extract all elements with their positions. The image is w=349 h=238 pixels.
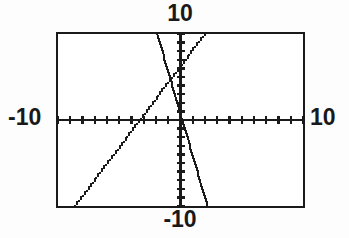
- line-pixel: [206, 201, 208, 204]
- line-pixel: [119, 145, 122, 148]
- y-max-label: 10: [0, 2, 349, 25]
- line-pixel: [126, 136, 128, 139]
- line-pixel: [167, 82, 170, 85]
- line-pixel: [136, 123, 139, 126]
- line-pixel: [165, 63, 167, 66]
- line-pixel: [101, 168, 104, 171]
- line-pixel: [201, 186, 203, 189]
- line-pixel: [158, 38, 160, 41]
- line-pixel: [177, 103, 179, 106]
- x-min-label: -10: [8, 106, 41, 129]
- line-pixel: [92, 182, 95, 185]
- line-pixel: [206, 204, 208, 206]
- line-pixel: [190, 50, 193, 53]
- line-pixel: [132, 127, 135, 130]
- line-pixel: [167, 69, 169, 72]
- line-pixel: [174, 93, 176, 96]
- line-pixel: [82, 195, 85, 198]
- line-pixel: [154, 100, 157, 103]
- line-pixel: [187, 136, 189, 139]
- line-pixel: [163, 57, 165, 60]
- line-pixel: [180, 112, 182, 115]
- line-pixel: [171, 84, 173, 87]
- line-pixel: [175, 72, 178, 75]
- line-pixel: [130, 131, 133, 134]
- line-pixel: [189, 146, 191, 149]
- line-pixel: [160, 44, 162, 47]
- line-pixel: [194, 161, 196, 164]
- line-pixel: [202, 189, 204, 192]
- line-pixel: [156, 34, 159, 35]
- line-pixel: [182, 121, 184, 124]
- line-pixel: [178, 106, 180, 109]
- line-pixel: [176, 100, 178, 103]
- line-pixel: [193, 158, 195, 161]
- line-pixel: [113, 154, 116, 157]
- line-pixel: [183, 124, 185, 127]
- line-pixel: [195, 164, 197, 167]
- line-pixel: [172, 87, 174, 90]
- line-pixel: [204, 195, 206, 198]
- line-pixel: [181, 118, 183, 121]
- line-pixel: [198, 176, 200, 179]
- line-pixel: [78, 200, 81, 203]
- graph-viewport-frame: [56, 32, 305, 208]
- line-pixel: [159, 91, 162, 94]
- line-pixel: [169, 75, 171, 78]
- line-pixel: [203, 192, 205, 195]
- line-pixel: [159, 41, 161, 44]
- line-pixel: [202, 36, 205, 39]
- line-pixel: [181, 64, 184, 67]
- line-pixel: [173, 90, 175, 93]
- line-pixel: [166, 66, 168, 69]
- line-pixel: [192, 155, 194, 158]
- line-pixel: [162, 50, 164, 53]
- line-pixel: [171, 81, 173, 84]
- line-pixel: [188, 54, 190, 57]
- line-pixel: [180, 115, 182, 118]
- line-pixel: [197, 170, 199, 173]
- line-pixel: [164, 60, 166, 63]
- line-pixel: [144, 113, 147, 116]
- line-pixel: [190, 149, 192, 152]
- line-pixel: [123, 141, 126, 144]
- line-pixel: [146, 109, 149, 112]
- line-pixel: [185, 59, 188, 62]
- line-pixel: [105, 164, 108, 167]
- line-pixel: [157, 35, 159, 38]
- line-pixel: [170, 78, 172, 81]
- x-max-label: 10: [310, 106, 336, 129]
- line-pixel: [191, 152, 193, 155]
- line-pixel: [161, 47, 163, 50]
- line-pixel: [88, 186, 91, 189]
- y-min-label: -10: [0, 208, 349, 231]
- line-pixel: [199, 179, 201, 182]
- line-pixel: [204, 34, 207, 36]
- line-pixel: [140, 118, 143, 121]
- calculator-screenshot: 10 -10 10 -10: [0, 0, 349, 238]
- line-pixel: [157, 95, 159, 98]
- line-pixel: [86, 190, 89, 193]
- line-pixel: [109, 159, 112, 162]
- line-pixel: [150, 105, 153, 108]
- graph-plot: [58, 34, 303, 206]
- line-pixel: [74, 205, 77, 206]
- line-pixel: [163, 87, 166, 90]
- line-pixel: [117, 149, 120, 152]
- line-pixel: [99, 172, 102, 175]
- line-pixel: [197, 173, 199, 176]
- line-pixel: [196, 167, 198, 170]
- line-pixel: [185, 130, 187, 133]
- line-pixel: [184, 127, 186, 130]
- line-pixel: [177, 68, 180, 71]
- line-pixel: [168, 72, 170, 75]
- line-pixel: [95, 177, 97, 180]
- line-pixel: [205, 198, 207, 201]
- line-pixel: [189, 143, 191, 146]
- line-pixel: [194, 46, 197, 49]
- line-pixel: [179, 109, 181, 112]
- line-pixel: [186, 133, 188, 136]
- line-pixel: [198, 41, 201, 44]
